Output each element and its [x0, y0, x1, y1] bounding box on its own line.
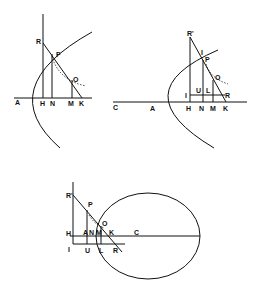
label-O: O [102, 220, 108, 227]
label-N: N [199, 105, 204, 112]
label-I: I [185, 92, 187, 99]
label-P: P [205, 56, 210, 63]
dashed-curve [52, 56, 86, 86]
label-M: M [210, 105, 216, 112]
label-K: K [79, 100, 84, 107]
label-R: R [113, 247, 118, 254]
parabola-curve [168, 50, 218, 148]
label-L: L [206, 87, 211, 94]
label-M: M [96, 229, 102, 236]
label-H: H [40, 100, 45, 107]
figure-parabola-right: R' I P O C A I U L R H N M K [113, 30, 247, 148]
label-A: A [83, 229, 88, 236]
label-R: R [36, 38, 41, 45]
label-C: C [113, 104, 118, 111]
label-M: M [68, 100, 74, 107]
label-O: O [73, 76, 79, 83]
label-I: I [68, 246, 70, 253]
label-P: P [88, 201, 93, 208]
label-P: P [56, 51, 61, 58]
label-U: U [85, 247, 90, 254]
label-L: L [99, 247, 104, 254]
figure-parabola-left: R P O A H N M K [14, 14, 92, 148]
label-R: R [225, 92, 230, 99]
label-R-prime: R' [187, 30, 194, 37]
label-H: H [66, 230, 71, 237]
label-K: K [109, 229, 114, 236]
label-N: N [89, 229, 94, 236]
label-C: C [134, 229, 139, 236]
label-R-prime: R' [66, 192, 73, 199]
parabola-curve [32, 32, 92, 148]
label-A: A [150, 105, 155, 112]
geometry-diagram: R P O A H N M K R' I P O C A I U L R H N… [0, 0, 259, 293]
label-I-top: I [201, 49, 203, 56]
label-A: A [15, 99, 20, 106]
figure-ellipse: R' P O H A N M K C I U L R [66, 182, 200, 279]
label-U: U [196, 87, 201, 94]
label-H: H [186, 105, 191, 112]
label-O: O [215, 74, 221, 81]
label-K: K [223, 105, 228, 112]
label-N: N [50, 100, 55, 107]
